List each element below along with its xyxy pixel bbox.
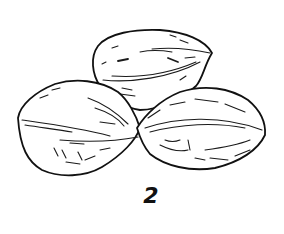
figure-number-label: 2 — [140, 185, 162, 207]
nut-left — [18, 81, 140, 176]
